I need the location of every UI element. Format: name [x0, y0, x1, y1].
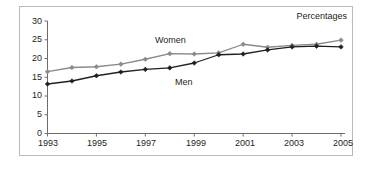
marker-women-1994: [70, 65, 75, 70]
marker-men-2005: [339, 45, 344, 50]
marker-men-1995: [94, 73, 99, 78]
marker-men-1999: [192, 61, 197, 66]
y-tick-label-25: 25: [26, 34, 42, 44]
x-tick-label-1995: 1995: [82, 138, 112, 148]
x-tick-label-1997: 1997: [131, 138, 161, 148]
x-tick-label-2005: 2005: [328, 138, 358, 148]
y-tick-label-15: 15: [26, 72, 42, 82]
marker-women-1993: [45, 69, 50, 74]
marker-women-1995: [94, 64, 99, 69]
y-tick-label-5: 5: [26, 109, 42, 119]
y-tick-label-0: 0: [26, 128, 42, 138]
series-label-women: Women: [155, 35, 186, 45]
marker-men-1997: [143, 67, 148, 72]
marker-women-1997: [143, 57, 148, 62]
y-tick-label-10: 10: [26, 90, 42, 100]
y-tick-label-20: 20: [26, 53, 42, 63]
x-tick-label-1999: 1999: [181, 138, 211, 148]
marker-women-2001: [241, 42, 246, 47]
x-tick-label-2003: 2003: [279, 138, 309, 148]
marker-women-2005: [339, 38, 344, 43]
marker-men-2001: [241, 52, 246, 57]
marker-women-1999: [192, 52, 197, 57]
y-tick-label-30: 30: [26, 16, 42, 26]
marker-women-1996: [119, 62, 124, 67]
marker-men-1998: [167, 66, 172, 71]
x-tick-label-2001: 2001: [230, 138, 260, 148]
percentages-note: Percentages: [296, 11, 347, 21]
x-tick-label-1993: 1993: [33, 138, 63, 148]
chart-figure: 30 25 20 15 10 5 0 1993 1995 1997 1999 2…: [0, 0, 372, 169]
marker-men-1993: [45, 82, 50, 87]
marker-men-1994: [70, 79, 75, 84]
marker-women-1998: [167, 51, 172, 56]
marker-men-1996: [119, 70, 124, 75]
series-label-men: Men: [175, 77, 193, 87]
